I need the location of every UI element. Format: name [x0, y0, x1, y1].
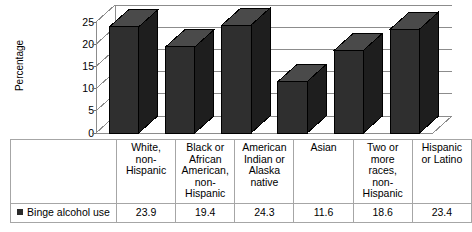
- value-cell: 23.4: [412, 203, 471, 222]
- category-label-line: White,: [118, 142, 174, 154]
- category-header-cell: White,non-Hispanic: [117, 140, 176, 204]
- category-label-line: Asian: [295, 142, 351, 154]
- plot-area: Percentage 25 20 15 10 5 0: [0, 0, 466, 150]
- legend-label: Binge alcohol use: [27, 206, 110, 218]
- data-table: White,non-HispanicBlack orAfricanAmerica…: [10, 139, 472, 223]
- plot-svg: [0, 0, 466, 150]
- legend-entry: Binge alcohol use: [11, 203, 117, 222]
- bar: [109, 10, 157, 133]
- y-axis-ticks: [92, 22, 96, 133]
- category-label-line: Two or: [355, 142, 411, 154]
- table-row-values: Binge alcohol use 23.919.424.311.618.623…: [11, 203, 472, 222]
- category-header-cell: Two ormoreraces,non-Hispanic: [353, 140, 412, 204]
- category-header-cell: Hispanicor Latino: [412, 140, 471, 204]
- category-label-line: American: [236, 142, 292, 154]
- category-label-line: races,: [355, 165, 411, 177]
- category-label-line: native: [236, 177, 292, 189]
- category-label-line: or Latino: [414, 154, 470, 166]
- category-label-line: Hispanic: [177, 188, 233, 200]
- value-cell: 18.6: [353, 203, 412, 222]
- series-color-swatch: [17, 209, 23, 215]
- category-label-line: Black or: [177, 142, 233, 154]
- bar: [334, 33, 382, 133]
- value-cell: 19.4: [176, 203, 235, 222]
- category-label-line: American,: [177, 165, 233, 177]
- category-label-line: Hispanic: [355, 188, 411, 200]
- bar: [390, 12, 438, 133]
- value-cell: 11.6: [294, 203, 353, 222]
- category-header-cell: Asian: [294, 140, 353, 204]
- bar: [278, 64, 326, 133]
- category-header-cell: Black orAfricanAmerican,non-Hispanic: [176, 140, 235, 204]
- table-row-categories: White,non-HispanicBlack orAfricanAmerica…: [11, 140, 472, 204]
- table-corner-blank: [11, 140, 117, 204]
- category-header-cell: AmericanIndian orAlaskanative: [235, 140, 294, 204]
- bar: [222, 8, 270, 133]
- value-cell: 23.9: [117, 203, 176, 222]
- category-label-line: Hispanic: [414, 142, 470, 154]
- bar: [166, 30, 214, 133]
- category-label-line: Hispanic: [118, 165, 174, 177]
- value-cell: 24.3: [235, 203, 294, 222]
- category-label-line: Alaska: [236, 165, 292, 177]
